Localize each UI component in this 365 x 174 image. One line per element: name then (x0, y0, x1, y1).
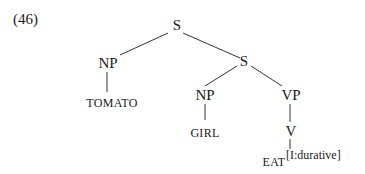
leaf-tomato: TOMATO (86, 97, 137, 109)
node-np-inner: NP (195, 88, 214, 103)
verb-feature: [I:durative] (286, 148, 341, 163)
node-s-inner: S (240, 54, 248, 69)
node-vp: VP (281, 88, 300, 103)
node-v: V (286, 124, 297, 139)
leaf-girl: GIRL (190, 127, 219, 139)
node-np-left: NP (98, 56, 117, 71)
node-s-root: S (173, 18, 181, 33)
leaf-eat: EAT (263, 156, 286, 168)
